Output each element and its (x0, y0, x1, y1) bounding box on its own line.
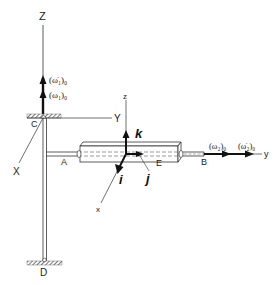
label-k: k (135, 126, 143, 141)
label-B: B (201, 157, 207, 167)
global-x-axis: X (13, 118, 43, 177)
vertical-shaft (43, 118, 47, 262)
label-Z: Z (39, 10, 46, 22)
label-C: C (31, 119, 38, 129)
local-x-axis: i x (96, 154, 126, 214)
label-z-local: z (123, 92, 127, 101)
label-i: i (119, 172, 123, 187)
label-omega2: (ω₂)₀ (209, 141, 226, 151)
dynamics-diagram: Z (ω̇₁)₀ (ω₁)₀ C Y X D A (0, 0, 277, 285)
local-y-axis: (ω₂)₀ (ω̇₂)₀ y (204, 141, 269, 159)
label-X: X (13, 166, 20, 177)
label-omega1: (ω₁)₀ (49, 90, 67, 100)
label-y-local: y (264, 149, 269, 159)
shaft-B: B (179, 151, 207, 168)
label-omega1-dot: (ω̇₁)₀ (49, 75, 67, 85)
omega1-dot-arrowhead-icon (40, 75, 47, 84)
label-j: j (144, 171, 150, 186)
omega1-arrowhead-icon (40, 89, 47, 98)
label-Y: Y (114, 113, 121, 124)
support-C: C (27, 114, 61, 129)
omega2-dot-arrowhead-icon (245, 151, 254, 158)
support-D: D (27, 258, 62, 278)
horizontal-arm: A (47, 152, 79, 167)
unit-k-arrow-icon (123, 130, 130, 138)
label-omega2-dot: (ω̇₂)₀ (238, 141, 255, 151)
label-x-local: x (96, 205, 100, 214)
label-A: A (61, 157, 67, 167)
label-E: E (156, 158, 162, 168)
global-y-axis: Y (61, 113, 121, 124)
omega2-arrowhead-icon (222, 151, 231, 158)
label-D: D (40, 267, 47, 278)
omega1-vectors: (ω̇₁)₀ (ω₁)₀ (40, 75, 68, 115)
